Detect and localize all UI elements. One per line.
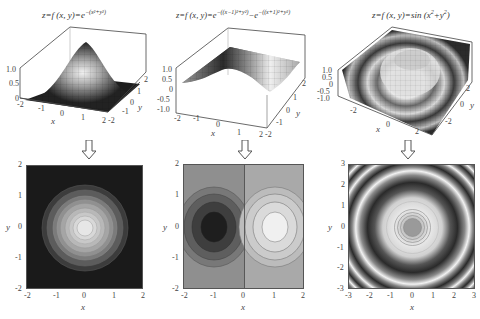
x-tick: 0 bbox=[241, 292, 245, 300]
x-axis-label: x bbox=[211, 128, 215, 138]
panel-dipole: z=f (x, y)=e−((x−1)²+y²)−e−((x+1)²+y²) 1… bbox=[160, 0, 320, 319]
x-tick: -1 bbox=[53, 292, 60, 300]
x-tick: -1 bbox=[210, 292, 217, 300]
z-tick: -0.5 bbox=[157, 96, 170, 104]
y-tick: 1 bbox=[341, 202, 345, 210]
x-axis-label: x bbox=[410, 302, 414, 312]
x-tick: 2 bbox=[452, 292, 456, 300]
y-tick: 1 bbox=[175, 191, 179, 199]
y-axis-label: y bbox=[6, 222, 10, 232]
y-tick: -2 bbox=[15, 285, 22, 293]
z-tick: -1.0 bbox=[157, 106, 170, 114]
y-tick: 1 bbox=[18, 192, 22, 200]
z-tick: -1.0 bbox=[317, 95, 330, 103]
x-tick: -2 bbox=[24, 292, 31, 300]
y-tick: -2 bbox=[265, 131, 272, 139]
surface-plot-1 bbox=[0, 0, 160, 150]
x-tick: -2 bbox=[174, 115, 181, 123]
y-tick: -1 bbox=[15, 254, 22, 262]
y-tick: -3 bbox=[337, 285, 344, 293]
x-tick: 0 bbox=[82, 292, 86, 300]
y-tick: -2 bbox=[445, 118, 452, 126]
y-tick: 2 bbox=[341, 181, 345, 189]
x-axis-label: x bbox=[376, 124, 380, 134]
down-arrow-icon bbox=[401, 140, 415, 160]
y-tick: -2 bbox=[337, 264, 344, 272]
z-tick: 0.5 bbox=[9, 80, 19, 88]
x-tick: -2 bbox=[17, 101, 24, 109]
x-axis-label: x bbox=[51, 116, 55, 126]
y-tick: -1 bbox=[172, 254, 179, 262]
z-tick: 0 bbox=[169, 86, 173, 94]
y-tick: 2 bbox=[175, 160, 179, 168]
y-axis-label: y bbox=[328, 222, 332, 232]
surface-plot-3 bbox=[320, 0, 480, 150]
x-tick: 0 bbox=[216, 121, 220, 129]
x-tick: 1 bbox=[81, 114, 85, 122]
y-tick: 2 bbox=[302, 80, 306, 88]
y-tick: 0 bbox=[175, 223, 179, 231]
x-tick: 0 bbox=[410, 292, 414, 300]
down-arrow-icon bbox=[238, 140, 252, 160]
y-tick: 0 bbox=[18, 223, 22, 231]
x-tick: 1 bbox=[431, 292, 435, 300]
y-tick: -1 bbox=[122, 108, 129, 116]
z-tick: 1.0 bbox=[6, 66, 16, 74]
down-arrow-icon bbox=[82, 140, 96, 160]
x-tick: 2 bbox=[415, 128, 419, 136]
contour-plot-3 bbox=[348, 164, 475, 289]
y-tick: -2 bbox=[108, 117, 115, 125]
x-tick: 1 bbox=[272, 292, 276, 300]
contour-plot-1 bbox=[26, 165, 143, 289]
panel-gaussian: z=f (x, y)=e−(x²+y²) 1.0 0.5 0 -2 -1 0 1 bbox=[0, 0, 160, 319]
x-tick: 2 bbox=[141, 292, 145, 300]
x-axis-label: x bbox=[241, 302, 245, 312]
x-tick: 2 bbox=[301, 292, 305, 300]
y-tick: 1 bbox=[293, 94, 297, 102]
y-tick: 0 bbox=[460, 101, 464, 109]
y-tick: -2 bbox=[172, 285, 179, 293]
y-tick: 0 bbox=[286, 107, 290, 115]
panel-ripple: z=f (x, y)=sin (x2+y2) 1.0 0.5 0 -0.5 -1 bbox=[320, 0, 480, 319]
y-tick: -1 bbox=[337, 244, 344, 252]
x-tick: -2 bbox=[366, 292, 373, 300]
x-tick: -1 bbox=[193, 115, 200, 123]
y-tick: 2 bbox=[466, 85, 470, 93]
x-tick: 0 bbox=[386, 121, 390, 129]
y-axis-label: y bbox=[163, 222, 167, 232]
x-tick: 0 bbox=[60, 110, 64, 118]
contour-plot-2 bbox=[183, 164, 304, 289]
x-tick: 2 bbox=[259, 131, 263, 139]
x-tick: -1 bbox=[387, 292, 394, 300]
y-tick: 0 bbox=[130, 99, 134, 107]
x-tick: -2 bbox=[181, 292, 188, 300]
y-tick: 3 bbox=[341, 160, 345, 168]
x-tick: -3 bbox=[345, 292, 352, 300]
x-tick: 1 bbox=[112, 292, 116, 300]
y-axis-label: y bbox=[138, 102, 142, 112]
y-axis-label: y bbox=[470, 100, 474, 110]
x-tick: -1 bbox=[38, 105, 45, 113]
x-axis-label: x bbox=[81, 302, 85, 312]
x-tick: -2 bbox=[350, 107, 357, 115]
y-tick: 2 bbox=[144, 76, 148, 84]
x-tick: 1 bbox=[237, 129, 241, 137]
y-tick: -1 bbox=[276, 119, 283, 127]
x-tick: 2 bbox=[102, 117, 106, 125]
z-tick: 1.0 bbox=[162, 66, 172, 74]
y-tick: 1 bbox=[137, 88, 141, 96]
x-tick: 3 bbox=[472, 292, 476, 300]
y-axis-label: y bbox=[296, 108, 300, 118]
y-tick: 0 bbox=[341, 223, 345, 231]
z-tick: 0.5 bbox=[162, 76, 172, 84]
y-tick: 2 bbox=[18, 161, 22, 169]
